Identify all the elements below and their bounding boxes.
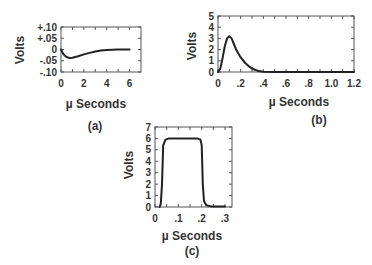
chart-b-ticks xyxy=(218,16,354,72)
chart-b-curve xyxy=(218,36,354,72)
chart-b-ylabel: Volts xyxy=(185,31,199,60)
x-tick-label: 4 xyxy=(104,78,110,89)
chart-a-ylabel: Volts xyxy=(13,35,27,64)
chart-b: 012345 0.2.4.6.81.01.2 Volts µ Seconds (… xyxy=(185,11,361,128)
y-tick-label: 0 xyxy=(51,44,57,55)
y-tick-label: 5 xyxy=(145,144,151,155)
chart-b-y-tick-labels: 012345 xyxy=(208,11,214,78)
x-tick-label: 1.2 xyxy=(347,78,361,89)
chart-a-caption: (a) xyxy=(88,119,103,133)
y-tick-label: 7 xyxy=(145,122,151,133)
y-tick-label: 1 xyxy=(208,55,214,66)
chart-b-xlabel: µ Seconds xyxy=(269,95,330,109)
y-tick-label: 3 xyxy=(208,33,214,44)
chart-c-y-tick-labels: 01234567 xyxy=(145,122,151,213)
y-tick-label: 3 xyxy=(145,167,151,178)
x-tick-label: .2 xyxy=(236,78,245,89)
chart-a-curve xyxy=(61,50,130,59)
x-tick-label: 0 xyxy=(58,78,64,89)
chart-c-xlabel: µ Seconds xyxy=(162,229,223,243)
x-tick-label: .1 xyxy=(174,213,183,224)
y-tick-label: -.10 xyxy=(40,67,58,78)
y-tick-label: 5 xyxy=(208,11,214,22)
x-tick-label: 6 xyxy=(127,78,133,89)
y-tick-label: 2 xyxy=(208,44,214,55)
y-tick-label: +.10 xyxy=(37,22,57,33)
y-tick-label: 0 xyxy=(208,67,214,78)
chart-c: 01234567 0.1.2.3 Volts µ Seconds (c) xyxy=(122,122,232,259)
y-tick-label: 2 xyxy=(145,179,151,190)
y-tick-label: 4 xyxy=(145,156,151,167)
x-tick-label: 0 xyxy=(215,78,221,89)
chart-a-xlabel: µ Seconds xyxy=(66,97,127,111)
y-tick-label: 4 xyxy=(208,22,214,33)
chart-b-frame xyxy=(218,16,354,72)
chart-b-x-tick-labels: 0.2.4.6.81.01.2 xyxy=(215,78,361,89)
x-tick-label: 2 xyxy=(81,78,87,89)
chart-a-x-tick-labels: 0246 xyxy=(58,78,133,89)
x-tick-label: .4 xyxy=(259,78,268,89)
x-tick-label: .6 xyxy=(282,78,291,89)
x-tick-label: 1.0 xyxy=(324,78,338,89)
chart-a: +.10+.050-.05-.10 0246 Volts µ Seconds (… xyxy=(13,22,141,134)
chart-b-caption: (b) xyxy=(311,113,326,127)
y-tick-label: 0 xyxy=(145,202,151,213)
y-tick-label: 6 xyxy=(145,133,151,144)
x-tick-label: 0 xyxy=(152,213,158,224)
y-tick-label: 1 xyxy=(145,190,151,201)
chart-c-curve xyxy=(160,138,225,207)
chart-c-ylabel: Volts xyxy=(122,150,136,179)
y-tick-label: +.05 xyxy=(37,33,57,44)
chart-c-caption: (c) xyxy=(185,244,200,258)
chart-c-x-tick-labels: 0.1.2.3 xyxy=(152,213,229,224)
y-tick-label: -.05 xyxy=(40,55,58,66)
figure: +.10+.050-.05-.10 0246 Volts µ Seconds (… xyxy=(0,0,372,265)
x-tick-label: .2 xyxy=(197,213,206,224)
x-tick-label: .8 xyxy=(304,78,313,89)
x-tick-label: .3 xyxy=(221,213,230,224)
chart-a-y-tick-labels: +.10+.050-.05-.10 xyxy=(37,22,57,78)
